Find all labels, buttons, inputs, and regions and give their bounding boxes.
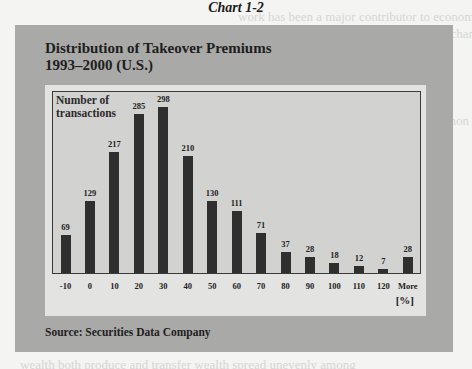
bar-value-label: 129 — [75, 188, 105, 198]
bar-90 — [305, 257, 315, 273]
bar-value-label: 130 — [197, 188, 227, 198]
chart-caption: Chart 1-2 — [0, 0, 472, 16]
bar-value-label: 217 — [99, 139, 129, 149]
chart-source: Source: Securities Data Company — [45, 326, 211, 338]
bar-0 — [85, 201, 95, 273]
bar-value-label: 28 — [393, 244, 423, 254]
bar-80 — [281, 252, 291, 273]
x-axis-unit: [%] — [396, 294, 414, 306]
x-tick-label: More — [393, 281, 423, 291]
bar-value-label: 298 — [148, 94, 178, 104]
bar-value-label: 71 — [246, 220, 276, 230]
chart-frame: Distribution of Takeover Premiums 1993–2… — [15, 25, 453, 352]
bar-110 — [354, 266, 364, 273]
y-axis-label-line2: transactions — [56, 107, 116, 120]
bar-value-label: 7 — [368, 256, 398, 266]
chart-panel: Number of transactions 69129217285298210… — [45, 85, 426, 316]
chart-title: Distribution of Takeover Premiums 1993–2… — [45, 40, 272, 74]
chart-title-line1: Distribution of Takeover Premiums — [45, 40, 272, 57]
bar-70 — [256, 233, 266, 273]
chart-title-line2: 1993–2000 (U.S.) — [45, 57, 272, 74]
plot-area: Number of transactions 69129217285298210… — [52, 91, 421, 274]
bar-100 — [329, 263, 339, 273]
bar-40 — [183, 156, 193, 273]
bar-20 — [134, 114, 144, 273]
bar-30 — [158, 107, 168, 273]
y-axis-label-line1: Number of — [56, 94, 116, 107]
bar-120 — [378, 269, 388, 273]
bar-More — [403, 257, 413, 273]
bar-value-label: 69 — [51, 222, 81, 232]
bar-60 — [232, 211, 242, 273]
bar-50 — [207, 201, 217, 273]
y-axis-label: Number of transactions — [56, 94, 116, 120]
bar-value-label: 210 — [173, 143, 203, 153]
bar-10 — [109, 152, 119, 273]
bar--10 — [61, 235, 71, 273]
bar-value-label: 111 — [222, 198, 252, 208]
